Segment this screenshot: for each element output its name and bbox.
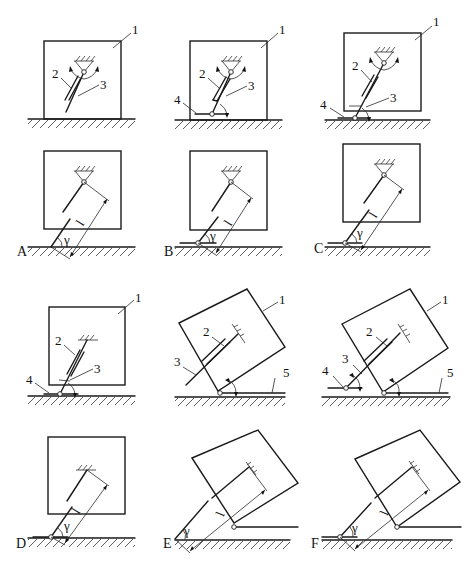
- callout-3: 3: [342, 351, 349, 366]
- ground-hatch: [325, 248, 430, 256]
- callout-2: 2: [55, 333, 62, 348]
- body-box: [48, 437, 125, 514]
- diagram-canvas: 1 2 3 1 2 3 4: [0, 0, 473, 573]
- callout-2: 2: [352, 58, 359, 73]
- callout-4: 4: [174, 92, 181, 107]
- panel-b-bottom: γ l B: [164, 151, 282, 259]
- panel-d-top: 1 2 3 4: [26, 290, 142, 405]
- panel-a-top: 1 2 3: [28, 22, 139, 128]
- callout-5: 5: [447, 365, 454, 380]
- angle-arc: [58, 238, 62, 247]
- panel-label-f: F: [311, 536, 319, 551]
- panel-label-e: E: [163, 536, 172, 551]
- ground-hatch: [322, 398, 450, 406]
- panel-e-top: 1 2 3 5: [174, 289, 290, 406]
- diagram-svg: 1 2 3 1 2 3 4: [0, 0, 473, 573]
- angle-label: γ: [356, 225, 363, 240]
- callout-2: 2: [203, 324, 210, 339]
- callout-1: 1: [135, 290, 142, 305]
- ground-hatch: [325, 121, 430, 129]
- panel-c-top: 1 2 3 4: [320, 14, 440, 129]
- callout-1: 1: [279, 22, 286, 37]
- panel-label-b: B: [164, 244, 173, 259]
- panel-label-c: C: [314, 241, 323, 256]
- angle-label: γ: [351, 520, 358, 535]
- panel-a-bottom: γ l A: [17, 151, 135, 259]
- body-box: [190, 151, 267, 230]
- callout-1: 1: [132, 22, 139, 37]
- callout-3: 3: [94, 361, 101, 376]
- body-box-rotated: [355, 430, 460, 527]
- callout-1: 1: [279, 292, 286, 307]
- pivot-joint: [82, 70, 87, 75]
- callout-2: 2: [199, 66, 206, 81]
- angle-label: γ: [183, 523, 190, 538]
- callout-4: 4: [26, 372, 33, 387]
- callout-2: 2: [366, 324, 373, 339]
- panel-b-top: 1 2 3 4: [174, 22, 286, 129]
- panel-f-bottom: γ l F: [311, 430, 461, 551]
- callout-5: 5: [283, 365, 290, 380]
- callout-1: 1: [442, 292, 449, 307]
- callout-1: 1: [433, 14, 440, 29]
- panel-f-top: 1 2 3 4 5: [322, 289, 454, 406]
- angle-label: γ: [63, 518, 70, 533]
- angle-label: γ: [209, 228, 216, 243]
- panel-label-d: D: [16, 536, 26, 551]
- panel-d-bottom: γ l D: [16, 437, 135, 551]
- ground-hatch: [28, 120, 135, 128]
- ground-hatch: [175, 248, 282, 256]
- ground-hatch: [175, 121, 282, 129]
- body-box-rotated: [192, 430, 298, 523]
- body-box: [343, 144, 420, 222]
- ground-hatch: [28, 397, 135, 405]
- panel-label-a: A: [17, 244, 28, 259]
- callout-3: 3: [390, 90, 397, 105]
- callout-3: 3: [100, 77, 107, 92]
- callout-3: 3: [174, 354, 181, 369]
- callout-4: 4: [322, 363, 329, 378]
- ground-hatch: [28, 248, 135, 256]
- ground-hatch: [322, 541, 452, 549]
- callout-3: 3: [248, 78, 255, 93]
- angle-label: γ: [63, 232, 70, 247]
- panel-e-bottom: γ l E: [163, 430, 298, 553]
- callout-4: 4: [320, 97, 327, 112]
- panel-c-bottom: γ l C: [314, 144, 430, 256]
- ground-hatch: [175, 398, 285, 406]
- body-box: [44, 151, 121, 229]
- ground-hatch: [28, 539, 135, 547]
- callout-2: 2: [52, 66, 59, 81]
